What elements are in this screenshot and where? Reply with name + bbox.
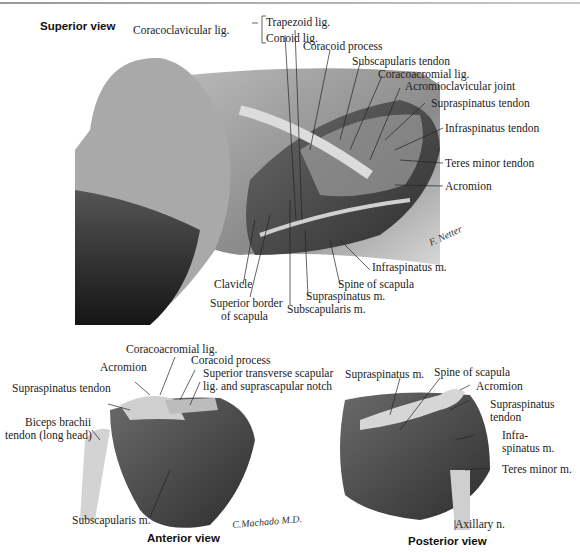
label-ant-coracoid-process: Coracoid process: [191, 354, 271, 367]
label-acromion: Acromion: [445, 180, 492, 193]
label-infraspinatus-line2: spinatus m.: [502, 442, 554, 455]
label-teres-minor-m: Teres minor m.: [502, 463, 572, 476]
label-biceps-line1: Biceps brachii: [25, 416, 91, 429]
label-post-supraspinatus-m: Supraspinatus m.: [345, 368, 424, 381]
label-supraspinatus-tendon: Supraspinatus tendon: [431, 97, 530, 110]
label-superior-border-line1: Superior border: [210, 297, 283, 310]
label-axillary-n: Axillary n.: [455, 518, 505, 531]
label-acromioclavicular-joint: Acromioclavicular joint: [405, 80, 515, 93]
posterior-view-title: Posterior view: [408, 535, 487, 547]
label-ant-acromion: Acromion: [100, 361, 147, 374]
label-supraspinatus-m: Supraspinatus m.: [306, 290, 385, 303]
label-subscapularis-tendon: Subscapularis tendon: [352, 55, 450, 68]
label-post-supraspinatus-tendon-line1: Supraspinatus: [490, 398, 555, 411]
label-clavicle: Clavicle: [214, 278, 252, 291]
label-coracoid-process: Coracoid process: [303, 40, 383, 53]
label-ant-supraspinatus-tendon: Supraspinatus tendon: [12, 382, 111, 395]
label-ant-subscapularis-m: Subscapularis m.: [72, 514, 151, 527]
anterior-view-title: Anterior view: [147, 532, 220, 544]
label-superior-transverse-line1: Superior transverse scapular: [203, 367, 333, 380]
label-infraspinatus-tendon: Infraspinatus tendon: [445, 122, 539, 135]
label-infraspinatus-m: Infraspinatus m.: [372, 261, 447, 274]
superior-view-title: Superior view: [40, 20, 115, 32]
label-post-spine-of-scapula: Spine of scapula: [434, 366, 510, 379]
label-post-acromion: Acromion: [476, 380, 523, 393]
label-trapezoid-lig: Trapezoid lig.: [266, 16, 330, 29]
label-biceps-line2: tendon (long head): [5, 429, 92, 442]
label-superior-border-line2: of scapula: [221, 310, 268, 323]
anterior-view-art: [80, 396, 255, 528]
label-teres-minor-tendon: Teres minor tendon: [445, 157, 534, 170]
label-subscapularis-m: Subscapularis m.: [287, 303, 366, 316]
label-infraspinatus-line1: Infra-: [502, 429, 528, 442]
label-post-supraspinatus-tendon-line2: tendon: [490, 411, 521, 424]
label-superior-transverse-line2: lig. and suprascapular notch: [203, 380, 332, 393]
label-coracoclavicular-lig: Coracoclavicular lig.: [133, 24, 229, 37]
